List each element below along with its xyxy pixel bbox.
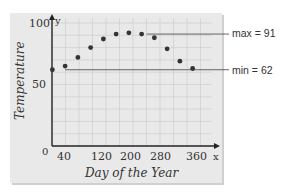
x-tick-120: 120 [91, 150, 112, 163]
data-point [88, 45, 93, 50]
scatter-chart: 100 y 50 0 40 120 200 280 360 x Day of t… [0, 0, 288, 195]
y-axis-label: Temperature [13, 41, 27, 120]
data-point [165, 46, 170, 51]
y-tick-100: 100 [29, 17, 50, 30]
reference-lines [65, 34, 229, 70]
x-axis-label: Day of the Year [84, 166, 179, 180]
x-axis-letter: x [213, 151, 219, 162]
grid-lines [52, 18, 212, 146]
data-point [190, 66, 195, 71]
x-tick-200: 200 [120, 150, 141, 163]
min-annotation: min = 62 [232, 64, 273, 76]
x-tick-40: 40 [57, 150, 71, 163]
data-point [75, 55, 80, 60]
max-annotation: max = 91 [232, 27, 276, 39]
y-tick-50: 50 [32, 78, 46, 91]
data-point [114, 32, 119, 37]
data-point [101, 37, 106, 42]
x-tick-360: 360 [186, 150, 207, 163]
x-tick-0: 0 [42, 146, 48, 157]
x-axis-arrow-icon [214, 143, 220, 149]
data-point [63, 64, 68, 69]
data-point [177, 59, 182, 64]
data-point [152, 35, 157, 40]
data-point [139, 32, 144, 37]
x-tick-280: 280 [150, 150, 171, 163]
data-point [126, 30, 131, 35]
data-point [50, 67, 55, 72]
y-axis-letter: y [54, 15, 61, 26]
